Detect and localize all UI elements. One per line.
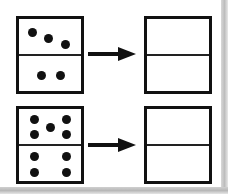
source-domino-1 — [16, 16, 84, 94]
right-arrow-icon — [88, 47, 138, 61]
pip — [62, 152, 71, 161]
domino-top-half-empty[interactable] — [147, 109, 209, 145]
pip — [61, 40, 70, 49]
domino-bottom-half-4-pips — [19, 145, 81, 181]
target-domino-2-empty[interactable] — [144, 106, 212, 184]
domino-top-half-3-pips — [19, 19, 81, 55]
pip — [30, 115, 39, 124]
domino-bottom-half-empty[interactable] — [147, 145, 209, 181]
right-arrow-icon — [88, 138, 138, 152]
pip — [30, 130, 39, 139]
domino-top-half-empty[interactable] — [147, 19, 209, 55]
pip — [44, 34, 53, 43]
domino-top-half-5-pips — [19, 109, 81, 145]
domino-bottom-half-2-pips — [19, 55, 81, 91]
pip — [37, 71, 46, 80]
source-domino-2 — [16, 106, 84, 184]
pip — [62, 115, 71, 124]
page-edge-shadow-bottom — [0, 187, 228, 194]
pip — [46, 123, 55, 132]
pip — [30, 168, 39, 177]
target-domino-1-empty[interactable] — [144, 16, 212, 94]
pip — [56, 71, 65, 80]
pip — [62, 130, 71, 139]
pip — [62, 168, 71, 177]
pip — [28, 28, 37, 37]
domino-bottom-half-empty[interactable] — [147, 55, 209, 91]
page-edge-shadow-right — [221, 0, 228, 194]
pip — [30, 152, 39, 161]
